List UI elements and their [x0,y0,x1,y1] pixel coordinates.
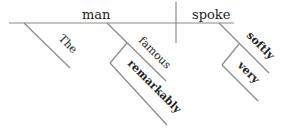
the-word: The [56,32,80,56]
remarkably-word: remarkably [125,57,184,116]
softly-word: softly [244,29,278,63]
remarkably-connector-line [110,43,127,63]
subject-word: man [82,7,111,22]
sentence-diagram: man spoke The famous remarkably softly v… [0,0,286,132]
very-connector-line [222,44,239,65]
predicate-word: spoke [192,7,231,22]
